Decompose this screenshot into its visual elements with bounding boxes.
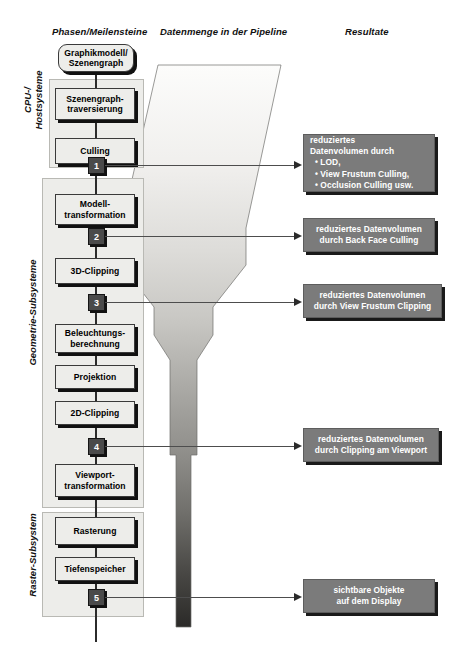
stage-box-graphikmodell[interactable]: Graphikmodell/ Szenengraph	[58, 44, 134, 72]
result-box-3[interactable]: reduziertes Datenvolumen durch View Frus…	[303, 284, 442, 318]
stage-box-rasterung[interactable]: Rasterung	[55, 517, 135, 545]
milestone-marker-2[interactable]: 2	[88, 228, 105, 245]
milestone-marker-3[interactable]: 3	[88, 294, 105, 311]
column-header-data-volume: Datenmenge in der Pipeline	[160, 26, 287, 37]
column-header-phases: Phasen/Meilensteine	[52, 26, 147, 37]
connector-line	[95, 120, 97, 138]
arrow-line-3	[105, 302, 298, 303]
result-box-4[interactable]: reduziertes Datenvolumen durch Clipping …	[303, 428, 439, 462]
connector-line-output	[95, 600, 97, 642]
stage-box-2d-clipping[interactable]: 2D-Clipping	[55, 401, 135, 425]
arrow-line-2	[105, 236, 298, 237]
stage-box-beleuchtungsberechnung[interactable]: Beleuchtungs- berechnung	[55, 324, 135, 353]
connector-line	[95, 545, 97, 557]
arrow-line-1	[105, 165, 298, 166]
arrow-line-4	[105, 446, 298, 447]
side-label-raster-subsystem: Raster-Subsystem	[27, 500, 38, 610]
arrow-head-3	[294, 298, 302, 306]
arrow-head-4	[294, 442, 302, 450]
result-box-2[interactable]: reduziertes Datenvolumen durch Back Face…	[303, 218, 435, 252]
result-box-5[interactable]: sichtbare Objekte auf dem Display	[303, 579, 435, 613]
arrow-head-1	[294, 161, 302, 169]
column-header-results: Resultate	[345, 26, 389, 37]
result-box-1[interactable]: reduziertes Datenvolumen durch • LOD, • …	[303, 134, 435, 192]
stage-box-3d-clipping[interactable]: 3D-Clipping	[55, 258, 135, 284]
arrow-head-2	[294, 232, 302, 240]
side-label-cpu-hostsysteme: CPU-/ Hostsysteme	[22, 45, 44, 155]
stage-box-szenengraph-traversierung[interactable]: Szenengraph- traversierung	[55, 88, 135, 120]
stage-box-modelltransformation[interactable]: Modell- transformation	[55, 194, 135, 225]
arrow-line-5	[105, 597, 298, 598]
connector-line	[95, 72, 97, 88]
stage-box-projektion[interactable]: Projektion	[55, 365, 135, 389]
diagram-canvas: Phasen/Meilensteine Datenmenge in der Pi…	[0, 0, 456, 645]
connector-line	[95, 497, 97, 517]
side-label-geometrie-subsysteme: Geometrie-Subsysteme	[27, 185, 38, 440]
stage-box-tiefenspeicher[interactable]: Tiefenspeicher	[55, 557, 135, 581]
arrow-head-5	[294, 593, 302, 601]
connector-line	[95, 353, 97, 365]
milestone-marker-5[interactable]: 5	[88, 589, 105, 606]
connector-line	[95, 172, 97, 194]
stage-box-viewporttransformation[interactable]: Viewport- transformation	[55, 464, 135, 497]
milestone-marker-1[interactable]: 1	[88, 157, 105, 174]
milestone-marker-4[interactable]: 4	[88, 438, 105, 455]
connector-line	[95, 389, 97, 401]
